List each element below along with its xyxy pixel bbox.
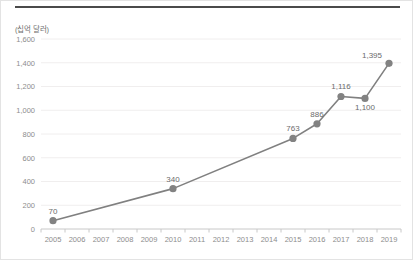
data-point-marker	[289, 135, 296, 142]
data-point-marker	[385, 60, 392, 67]
data-point-label: 763	[286, 124, 300, 133]
x-axis-tick-label: 2008	[117, 235, 134, 244]
data-point-label: 1,116	[331, 82, 351, 91]
data-point-marker	[313, 120, 320, 127]
y-axis-tick-label: 0	[31, 225, 35, 234]
data-point-label: 1,100	[355, 103, 376, 112]
y-axis-tick-label: 1,400	[16, 59, 35, 68]
data-point-label: 886	[310, 110, 324, 119]
x-axis-tick-label: 2018	[357, 235, 374, 244]
y-axis-tick-label: 200	[22, 201, 35, 210]
x-axis-tick-label: 2015	[285, 235, 302, 244]
x-axis-tick-label: 2011	[189, 235, 205, 244]
y-axis-ticks-group: 02004006008001,0001,2001,4001,600	[16, 35, 35, 234]
x-axis-tick-label: 2014	[261, 235, 278, 244]
data-point-label: 340	[166, 175, 180, 184]
x-axis-tick-label: 2010	[165, 235, 182, 244]
data-point-label: 1,395	[362, 51, 383, 60]
x-axis-tick-label: 2012	[213, 235, 230, 244]
y-axis-tick-label: 1,000	[16, 106, 35, 115]
y-axis-tick-label: 600	[22, 154, 35, 163]
x-axis-tick-label: 2013	[237, 235, 254, 244]
x-axis-tick-label: 2007	[93, 235, 110, 244]
x-axis-tick-label: 2005	[45, 235, 62, 244]
y-axis-tick-label: 1,200	[16, 82, 35, 91]
line-chart-canvas: 02004006008001,0001,2001,4001,600 200520…	[1, 1, 413, 260]
data-point-marker	[169, 185, 176, 192]
x-axis-tick-label: 2016	[309, 235, 326, 244]
y-axis-tick-label: 800	[22, 130, 35, 139]
x-axis-tick-label: 2017	[333, 235, 350, 244]
x-axis-tick-label: 2009	[141, 235, 158, 244]
x-axis-tick-label: 2006	[69, 235, 86, 244]
data-point-marker	[337, 93, 344, 100]
x-axis-tick-label: 2019	[381, 235, 398, 244]
y-axis-tick-label: 1,600	[16, 35, 35, 44]
data-point-marker	[49, 217, 56, 224]
data-point-label: 70	[49, 207, 58, 216]
y-axis-tick-label: 400	[22, 177, 35, 186]
x-axis-ticks-group: 2005200620072008200920102011201220132014…	[41, 229, 401, 244]
chart-figure: (십억 달러) 02004006008001,0001,2001,4001,60…	[0, 0, 413, 260]
data-point-marker	[361, 95, 368, 102]
gridlines-group	[41, 39, 401, 205]
